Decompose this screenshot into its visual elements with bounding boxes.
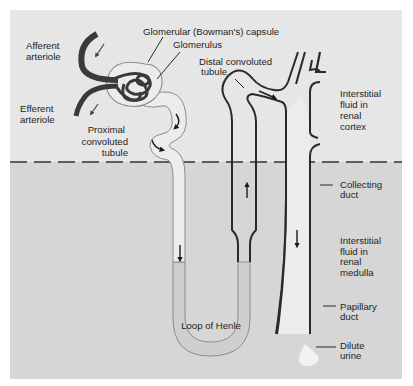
label-proximal: Proximal [88,124,125,135]
label-afferent-2: arteriole [26,51,61,62]
label-papillary-2: duct [340,311,358,322]
label-cortex: Interstitial [340,88,381,99]
label-bowmans-capsule: Glomerular (Bowman's) capsule [143,26,279,37]
label-cortex-2: fluid in [340,99,368,110]
label-glomerulus: Glomerulus [173,39,222,50]
label-medulla: Interstitial [340,235,381,246]
label-distal-2: tubule [201,66,227,77]
label-proximal-2: convoluted [82,136,128,147]
label-urine-2: urine [340,350,361,361]
label-collecting-2: duct [340,189,358,200]
label-proximal-3: tubule [102,147,128,158]
label-cortex-3: renal [340,110,361,121]
nephron-diagram: Afferent arteriole Efferent arteriole Gl… [0,0,413,386]
label-efferent: Efferent [20,103,54,114]
label-efferent-2: arteriole [20,114,55,125]
label-loop-of-henle: Loop of Henle [181,320,241,331]
label-medulla-4: medulla [340,267,374,278]
label-cortex-4: cortex [340,121,366,132]
label-medulla-3: renal [340,256,361,267]
label-afferent: Afferent [26,40,60,51]
